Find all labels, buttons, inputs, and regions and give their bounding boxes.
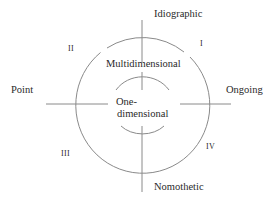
label-ongoing: Ongoing <box>226 85 263 96</box>
label-nomothetic: Nomothetic <box>154 182 204 193</box>
label-idiographic: Idiographic <box>154 9 202 20</box>
quadrant-label-1: I <box>200 40 203 48</box>
label-one-dimensional-line1: One- <box>116 97 137 108</box>
quadrant-label-2: II <box>68 45 74 53</box>
label-one-dimensional-line2: dimensional <box>117 109 168 120</box>
label-multidimensional: Multidimensional <box>106 59 181 70</box>
quadrant-label-3: III <box>61 150 70 158</box>
diagram-graphic <box>0 0 274 202</box>
label-point: Point <box>11 85 33 96</box>
quadrant-label-4: IV <box>206 143 215 151</box>
outer-ring-top-arc <box>107 38 184 52</box>
